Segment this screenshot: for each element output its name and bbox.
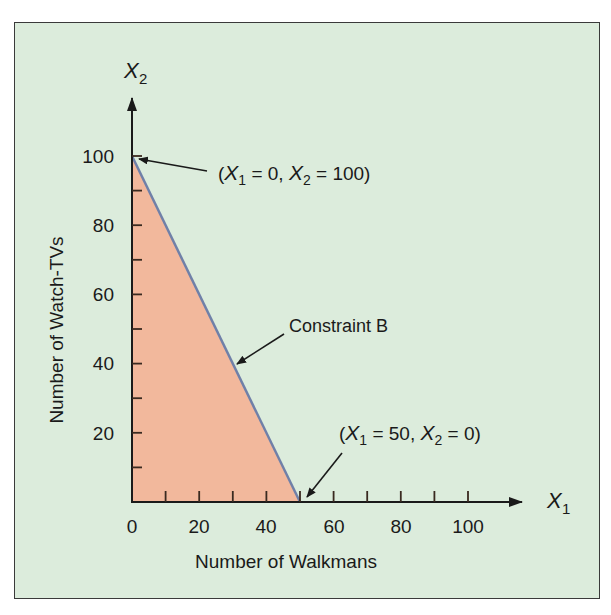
annotation-constraint-b: Constraint B (289, 316, 388, 336)
svg-text:1: 1 (562, 500, 570, 517)
x-tick-label-40: 40 (255, 516, 276, 537)
x-tick-label-100: 100 (452, 516, 484, 537)
y-tick-labels: 100 80 60 40 20 (82, 146, 114, 444)
x-tick-label-20: 20 (188, 516, 209, 537)
y-axis-symbol: X 2 (123, 58, 147, 87)
x-tick-label-0: 0 (127, 516, 138, 537)
y-tick-label-40: 40 (93, 353, 114, 374)
y-tick-label-100: 100 (82, 146, 114, 167)
x-axis-symbol: X 1 (546, 488, 570, 517)
annotation-arrow-constraint (237, 334, 284, 364)
svg-text:2: 2 (139, 70, 147, 87)
annotation-bottom-point: (X1 = 50, X2 = 0) (339, 421, 481, 448)
svg-text:X: X (546, 488, 563, 513)
svg-text:X: X (123, 58, 140, 83)
x-axis-label: Number of Walkmans (195, 551, 377, 572)
annotation-arrow-top (139, 159, 207, 171)
x-tick-label-60: 60 (323, 516, 344, 537)
annotation-top-point: (X1 = 0, X2 = 100) (218, 161, 370, 188)
x-tick-labels: 0 20 40 60 80 100 (127, 516, 484, 537)
annotation-arrow-bottom (307, 453, 342, 497)
y-tick-label-60: 60 (93, 284, 114, 305)
y-axis-label: Number of Watch-TVs (46, 236, 67, 423)
y-tick-label-20: 20 (93, 423, 114, 444)
chart-plot: 100 80 60 40 20 0 20 40 60 80 100 Number… (0, 0, 611, 615)
x-tick-label-80: 80 (390, 516, 411, 537)
y-tick-label-80: 80 (93, 215, 114, 236)
